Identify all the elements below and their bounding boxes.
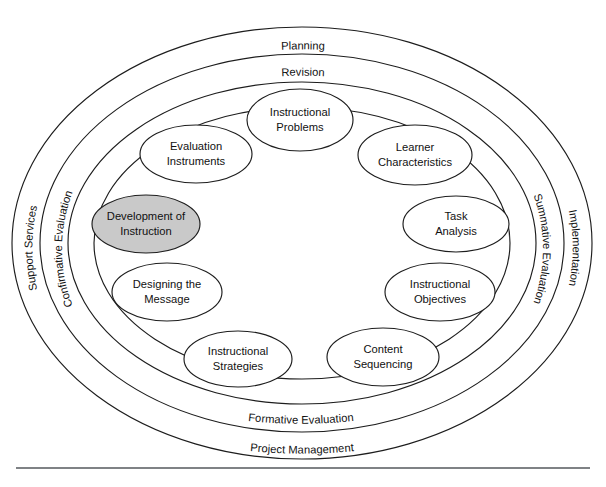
ring-label-revision: Revision [281,66,325,78]
node-designing-the-message[interactable]: Designing the Message [112,263,222,321]
node-label-learner-characteristics-line2: Characteristics [378,156,452,168]
node-task-analysis[interactable]: Task Analysis [403,196,509,252]
node-label-development-of-instruction-line1: Development of [107,210,186,222]
ring-label-planning: Planning [281,39,325,51]
node-label-evaluation-instruments-line2: Instruments [167,155,226,167]
node-label-content-sequencing-line2: Sequencing [353,358,412,370]
model-canvas: Planning Revision Formative Evaluation P… [0,0,606,487]
node-label-task-analysis-line2: Analysis [435,225,477,237]
node-label-evaluation-instruments-line1: Evaluation [170,140,222,152]
node-label-instructional-strategies-line2: Strategies [213,360,264,372]
node-label-task-analysis-line1: Task [444,210,467,222]
node-label-instructional-objectives-line2: Objectives [414,293,467,305]
node-learner-characteristics[interactable]: Learner Characteristics [358,125,472,185]
node-instructional-strategies[interactable]: Instructional Strategies [184,331,292,387]
ring-label-implementation: Implementation [567,208,583,287]
node-evaluation-instruments[interactable]: Evaluation Instruments [140,125,252,183]
ring-label-project-management: Project Management [250,441,355,456]
node-instructional-objectives[interactable]: Instructional Objectives [385,263,495,321]
node-label-instructional-problems-line2: Problems [276,121,324,133]
node-label-development-of-instruction-line2: Instruction [120,225,172,237]
ring-label-confirmative-evaluation: Confirmative Evaluation [52,189,75,310]
node-development-of-instruction[interactable]: Development of Instruction [92,195,200,253]
instructional-design-diagram: Planning Revision Formative Evaluation P… [0,0,606,487]
ring-label-formative-evaluation: Formative Evaluation [248,411,354,426]
node-label-content-sequencing-line1: Content [363,343,403,355]
node-label-designing-the-message-line1: Designing the [133,278,201,290]
node-label-designing-the-message-line2: Message [144,293,189,305]
node-label-instructional-objectives-line1: Instructional [410,278,470,290]
node-content-sequencing[interactable]: Content Sequencing [327,328,439,386]
node-instructional-problems[interactable]: Instructional Problems [247,89,353,151]
node-label-learner-characteristics-line1: Learner [396,141,435,153]
ring-label-summative-evaluation: Summative Evaluation [532,192,553,306]
node-label-instructional-strategies-line1: Instructional [208,345,268,357]
ring-label-support-services: Support Services [22,204,39,292]
node-label-instructional-problems-line1: Instructional [270,106,330,118]
